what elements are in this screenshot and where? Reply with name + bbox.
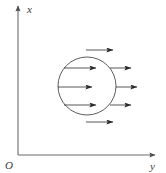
x-axis-label: x xyxy=(26,3,32,15)
figure-container: x y O xyxy=(0,0,166,173)
flux-circle xyxy=(58,57,116,115)
vector-field-diagram: x y O xyxy=(0,0,166,173)
origin-label: O xyxy=(5,159,13,171)
y-axis-label: y xyxy=(149,160,155,172)
flux-circle-group xyxy=(58,57,116,115)
vector-field-arrows xyxy=(58,50,137,122)
axes-group: x y O xyxy=(5,3,155,172)
